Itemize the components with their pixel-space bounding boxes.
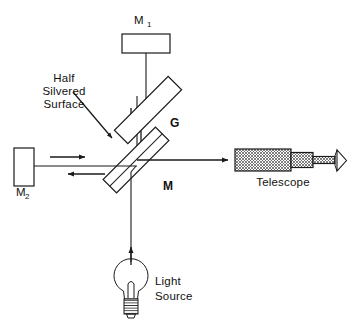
half-silvered-label-line3: Surface [43, 98, 84, 110]
telescope-barrel-objective [235, 149, 291, 171]
eye-icon [337, 150, 347, 171]
telescope-label: Telescope [256, 176, 310, 188]
telescope-barrel-middle [291, 153, 313, 168]
bulb-base-tip [127, 314, 136, 318]
mirror-m2-subscript: 2 [25, 192, 30, 201]
light-source-label-line2: Source [155, 290, 193, 302]
compensator-plate-group [114, 76, 181, 143]
compensator-plate-label: G [170, 116, 179, 130]
compensator-plate-body [114, 76, 181, 143]
interferometer-figure: M 1 M 2 G M Half Silvered Surface Telesc… [0, 0, 350, 333]
half-silvered-label-line1: Half [53, 72, 75, 84]
mirror-m1-label: M [134, 14, 144, 26]
light-bulb-group [114, 259, 148, 318]
half-silvered-label-line2: Silvered [42, 85, 85, 97]
light-source-label-line1: Light [155, 275, 182, 287]
bulb-filament [128, 282, 134, 299]
beam-splitter-label: M [163, 179, 173, 193]
bulb-screw-base [124, 299, 138, 314]
mirror-m1-subscript: 1 [147, 20, 152, 29]
mirror-m2-body [14, 148, 34, 186]
telescope-barrel-eyepiece [313, 157, 335, 164]
mirror-m1-body [122, 34, 170, 53]
interferometer-diagram: M 1 M 2 G M Half Silvered Surface Telesc… [0, 0, 350, 333]
telescope-group [235, 149, 347, 171]
source-beam-group [131, 166, 136, 265]
